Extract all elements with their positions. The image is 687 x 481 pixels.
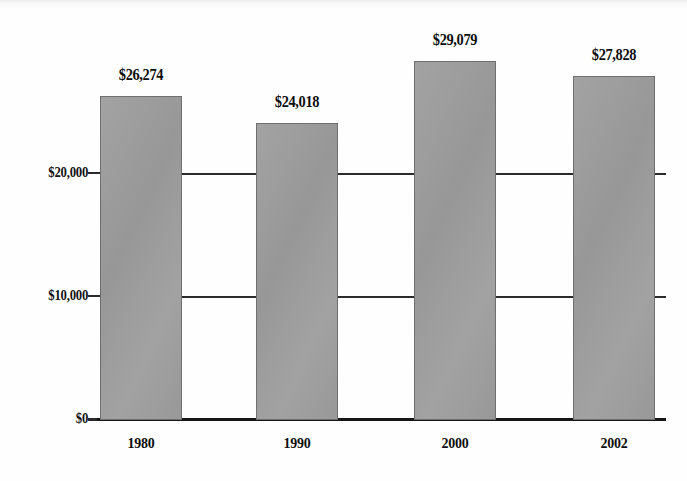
bar-2000[interactable] xyxy=(414,61,496,420)
y-tick-mark-10000 xyxy=(88,295,100,297)
x-axis-label-1980: 1980 xyxy=(105,434,177,452)
y-tick-label-20000: $20,000 xyxy=(14,164,88,181)
x-axis-label-2002: 2002 xyxy=(578,434,650,452)
bar-1990[interactable] xyxy=(256,123,338,420)
scan-artifact-top xyxy=(0,0,687,9)
bar-2002[interactable] xyxy=(573,76,655,420)
bar-chart: $20,000 $10,000 $0 $26,274 $24,018 $29,0… xyxy=(0,0,687,481)
bar-value-label-2002: $27,828 xyxy=(565,46,664,64)
bar-value-label-1980: $26,274 xyxy=(92,66,191,84)
x-axis-label-2000: 2000 xyxy=(419,434,491,452)
y-tick-label-0: $0 xyxy=(14,410,88,427)
bar-1980[interactable] xyxy=(100,96,182,420)
bar-value-label-2000: $29,079 xyxy=(406,31,505,49)
x-axis-label-1990: 1990 xyxy=(261,434,333,452)
y-tick-label-10000: $10,000 xyxy=(14,287,88,304)
y-axis-labels: $20,000 $10,000 $0 xyxy=(0,0,88,481)
y-tick-mark-20000 xyxy=(88,172,100,174)
bar-value-label-1990: $24,018 xyxy=(248,93,347,111)
